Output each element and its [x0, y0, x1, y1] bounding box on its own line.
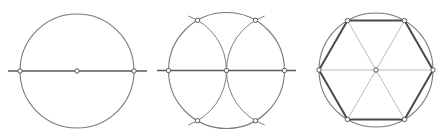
step-2-arc-construction	[157, 13, 296, 129]
step-3-inscribed-hexagon	[317, 13, 435, 127]
hexagon-vertex	[402, 117, 406, 121]
construction-point	[75, 69, 79, 73]
intersection-point	[253, 18, 257, 22]
intersection-point	[166, 68, 170, 72]
hexagon-edge	[405, 70, 434, 119]
intersection-point	[195, 119, 199, 123]
hexagon-construction-diagram: Construction of a regular hexagon inscri…	[0, 0, 440, 140]
intersection-point	[282, 68, 286, 72]
hexagon-vertex	[374, 68, 378, 72]
hexagon-vertex	[431, 68, 435, 72]
hexagon-vertex	[345, 117, 349, 121]
hexagon-edge	[319, 70, 348, 119]
construction-point	[18, 69, 22, 73]
step-1-circle-with-diameter	[8, 14, 147, 128]
intersection-point	[195, 18, 199, 22]
intersection-point	[224, 68, 228, 72]
hexagon-vertex	[345, 18, 349, 22]
hexagon-vertex	[402, 18, 406, 22]
construction-point	[132, 69, 136, 73]
hexagon-edge	[319, 21, 348, 70]
hexagon-edge	[405, 21, 434, 70]
diagram-canvas	[0, 0, 440, 140]
intersection-point	[253, 119, 257, 123]
hexagon-vertex	[317, 68, 321, 72]
